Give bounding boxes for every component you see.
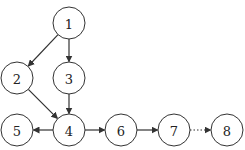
node-6: 6 xyxy=(105,114,137,146)
node-5: 5 xyxy=(1,114,33,146)
node-7: 7 xyxy=(158,114,190,146)
node-2: 2 xyxy=(1,62,33,94)
node-1: 1 xyxy=(53,7,85,39)
node-8: 8 xyxy=(211,114,243,146)
node-label: 1 xyxy=(65,17,73,32)
node-4: 4 xyxy=(53,114,85,146)
nodes: 12345678 xyxy=(1,7,243,146)
node-3: 3 xyxy=(53,62,85,94)
edge-2-4 xyxy=(28,89,57,118)
edge-1-2 xyxy=(28,35,58,66)
node-label: 8 xyxy=(223,124,231,139)
graph-canvas: 12345678 xyxy=(0,0,245,150)
node-label: 6 xyxy=(117,124,125,139)
node-label: 2 xyxy=(13,72,21,87)
node-label: 7 xyxy=(170,124,178,139)
node-label: 3 xyxy=(65,72,73,87)
node-label: 5 xyxy=(13,124,21,139)
node-label: 4 xyxy=(65,124,73,139)
